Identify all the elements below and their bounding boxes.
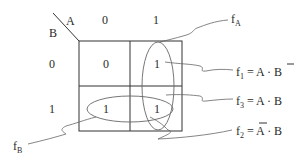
leader-f1 — [165, 62, 233, 71]
label-fA: fA — [231, 12, 241, 28]
row-header-0: 0 — [49, 57, 55, 71]
karnaugh-map-diagram: A B 0 1 0 1 0 1 1 1 fA f1 = A · B f3 = A… — [0, 0, 300, 159]
col-header-1: 1 — [153, 13, 159, 27]
label-fB: fB — [13, 139, 22, 155]
col-header-0: 0 — [102, 13, 108, 27]
var-col-label: A — [66, 14, 75, 28]
var-row-label: B — [49, 26, 57, 40]
cell-b0-a1: 1 — [154, 57, 160, 71]
cell-b0-a0: 0 — [103, 57, 109, 71]
cell-b1-a1: 1 — [154, 102, 160, 116]
label-f2: f2 = A · B — [236, 124, 282, 140]
cell-b1-a0: 1 — [103, 102, 109, 116]
row-header-1: 1 — [49, 102, 55, 116]
label-f3: f3 = A · B — [236, 94, 282, 110]
label-f1: f1 = A · B — [236, 65, 282, 81]
leader-f3 — [166, 95, 233, 102]
leader-fA — [160, 20, 228, 42]
